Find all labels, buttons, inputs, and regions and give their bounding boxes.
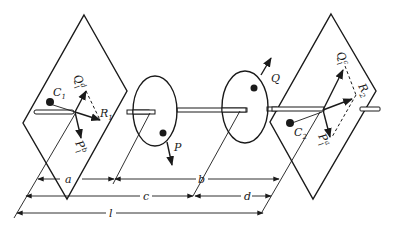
disc-right: Q <box>222 58 280 143</box>
svg-text:Pbl: Pbl <box>69 137 90 157</box>
left-q-label: Qdl <box>68 72 89 93</box>
dim-l-label: l <box>109 207 113 220</box>
dim-b-label: b <box>198 173 205 186</box>
disc-left-unbalance-mass <box>160 130 167 137</box>
extension-lines <box>14 111 320 218</box>
left-bearing-plane <box>23 15 127 199</box>
left-mass-label: C1 <box>53 86 66 101</box>
left-r-label: R1 <box>99 107 113 122</box>
left-plane-outline <box>23 15 127 199</box>
dim-c-label: c <box>143 190 149 203</box>
right-correction-mass <box>286 119 294 127</box>
left-correction-mass <box>46 98 54 106</box>
disc-left-force-arrow <box>167 142 172 165</box>
left-q-arrow <box>75 91 86 112</box>
svg-text:Qcl: Qcl <box>331 49 352 69</box>
disc-right-hub <box>222 108 246 112</box>
diagram-canvas: P Q C1 Qdl R1 Pbl C2 Q <box>0 0 394 231</box>
shaft-diagram: P Q C1 Qdl R1 Pbl C2 Q <box>0 0 394 231</box>
shaft-right-stub <box>360 107 380 111</box>
right-dashed-q-r <box>345 66 356 95</box>
shaft-left-stub <box>34 110 74 114</box>
shaft-right-inner <box>272 107 324 111</box>
ext-left-plane <box>14 114 75 218</box>
right-mass-arm <box>292 112 322 123</box>
disc-right-outline <box>222 71 268 143</box>
dim-a-label: a <box>65 173 72 186</box>
ext-disc-left <box>113 113 150 184</box>
left-plane-forces: C1 Qdl R1 Pbl <box>46 72 113 157</box>
disc-right-force-label: Q <box>271 72 280 85</box>
disc-right-unbalance-mass <box>251 85 258 92</box>
svg-text:R2: R2 <box>353 80 373 100</box>
left-p-arrow <box>75 112 81 138</box>
disc-left-hub <box>133 110 155 114</box>
disc-left-force-label: P <box>173 141 182 154</box>
left-p-label: Pbl <box>69 137 90 157</box>
svg-text:Qdl: Qdl <box>68 72 89 93</box>
right-q-label: Qcl <box>331 49 352 69</box>
right-mass-label: C2 <box>294 126 307 141</box>
right-r-label: R2 <box>353 80 373 100</box>
dim-d-label: d <box>244 190 251 203</box>
disc-left: P <box>133 76 182 165</box>
disc-right-force-arrow <box>261 58 271 75</box>
